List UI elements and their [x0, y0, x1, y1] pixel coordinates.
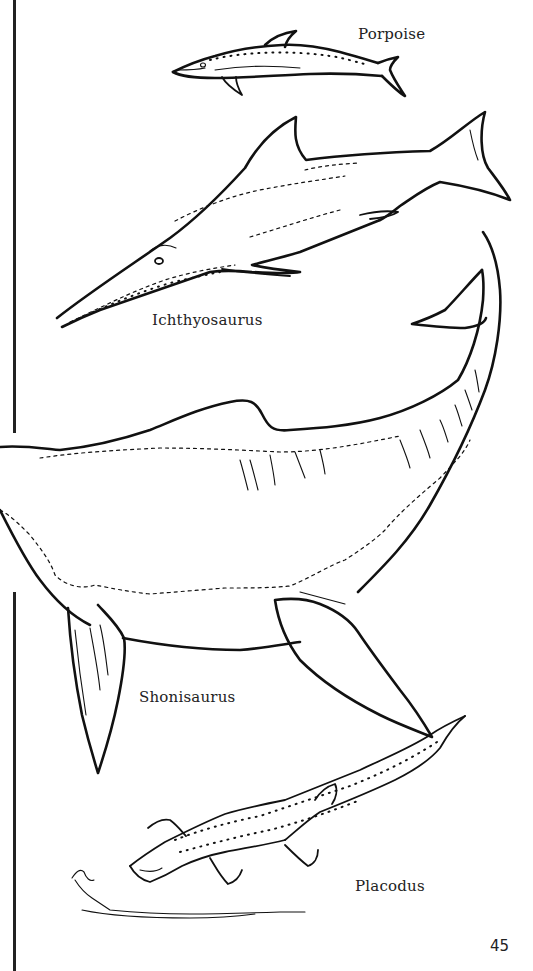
illustrations-canvas: [0, 0, 533, 971]
coloring-page: Porpoise Ichthyosaurus Shonisaurus Placo…: [0, 0, 533, 971]
placodus-label: Placodus: [355, 877, 425, 895]
ichthyosaurus-label: Ichthyosaurus: [152, 311, 263, 329]
page-number: 45: [490, 937, 509, 955]
ichthyosaurus-drawing: [57, 112, 510, 327]
porpoise-label: Porpoise: [358, 25, 425, 43]
shonisaurus-label: Shonisaurus: [139, 688, 235, 706]
